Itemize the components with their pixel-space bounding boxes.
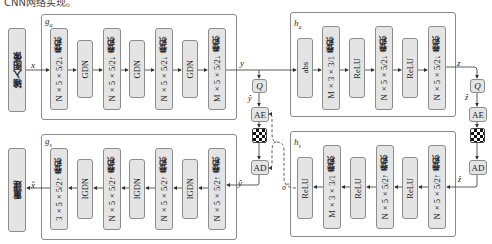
diagram-canvas: CNN网络实现。 ga ha gs hs 输入图像 重建 N×5×5/2↓卷积 … bbox=[0, 0, 492, 244]
connector-lines bbox=[0, 0, 492, 244]
